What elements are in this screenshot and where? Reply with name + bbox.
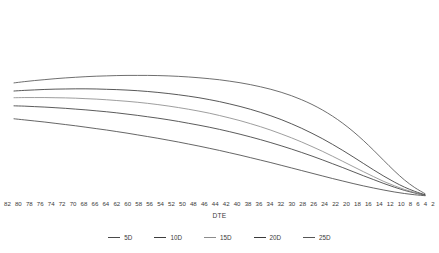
plot-svg (0, 0, 439, 200)
series-line-20d (14, 89, 425, 195)
legend-line-icon (108, 237, 120, 238)
chart-legend: 5D10D15D20D25D (0, 231, 439, 245)
legend-line-icon (303, 237, 315, 238)
x-tick-label: 12 (387, 201, 394, 207)
x-tick-label: 26 (310, 201, 317, 207)
x-tick-label: 36 (256, 201, 263, 207)
x-tick-label: 14 (376, 201, 383, 207)
x-tick-label: 4 (424, 201, 427, 207)
x-tick-label: 42 (223, 201, 230, 207)
x-tick-label: 62 (113, 201, 120, 207)
x-tick-label: 54 (157, 201, 164, 207)
legend-line-icon (254, 237, 266, 238)
x-tick-label: 68 (81, 201, 88, 207)
x-tick-label: 38 (245, 201, 252, 207)
x-axis-title: DTE (0, 212, 439, 219)
x-tick-label: 76 (37, 201, 44, 207)
series-group (14, 75, 425, 195)
x-tick-label: 48 (190, 201, 197, 207)
x-tick-label: 74 (48, 201, 55, 207)
x-tick-label: 32 (277, 201, 284, 207)
series-line-5d (14, 119, 425, 196)
x-tick-label: 46 (201, 201, 208, 207)
plot-area (0, 0, 439, 200)
x-tick-label: 70 (70, 201, 77, 207)
x-tick-label: 10 (398, 201, 405, 207)
x-tick-label: 22 (332, 201, 339, 207)
legend-item-20d[interactable]: 20D (254, 235, 282, 241)
legend-item-10d[interactable]: 10D (154, 235, 182, 241)
x-tick-label: 66 (92, 201, 99, 207)
legend-item-15d[interactable]: 15D (204, 235, 232, 241)
legend-label: 20D (270, 235, 282, 241)
x-tick-label: 18 (354, 201, 361, 207)
legend-label: 10D (170, 235, 182, 241)
x-tick-label: 2 (431, 201, 434, 207)
legend-label: 5D (124, 235, 132, 241)
legend-label: 25D (319, 235, 331, 241)
x-tick-label: 82 (4, 201, 11, 207)
x-tick-label: 64 (102, 201, 109, 207)
x-tick-label: 8 (409, 201, 412, 207)
x-tick-label: 80 (15, 201, 22, 207)
legend-line-icon (204, 237, 216, 238)
x-tick-label: 40 (234, 201, 241, 207)
legend-line-icon (154, 237, 166, 238)
x-axis-tick-labels: 8280787674727068666462605856545250484644… (0, 197, 439, 211)
legend-label: 15D (220, 235, 232, 241)
x-tick-label: 52 (168, 201, 175, 207)
legend-item-25d[interactable]: 25D (303, 235, 331, 241)
line-chart: 8280787674727068666462605856545250484644… (0, 0, 439, 253)
x-tick-label: 20 (343, 201, 350, 207)
legend-item-5d[interactable]: 5D (108, 235, 132, 241)
x-tick-label: 58 (135, 201, 142, 207)
x-tick-label: 28 (299, 201, 306, 207)
x-tick-label: 16 (365, 201, 372, 207)
x-tick-label: 6 (416, 201, 419, 207)
series-line-15d (14, 98, 425, 196)
x-tick-label: 56 (146, 201, 153, 207)
x-tick-label: 78 (26, 201, 33, 207)
x-tick-label: 72 (59, 201, 66, 207)
x-tick-label: 50 (179, 201, 186, 207)
x-tick-label: 44 (212, 201, 219, 207)
x-tick-label: 60 (124, 201, 131, 207)
x-tick-label: 30 (288, 201, 295, 207)
x-tick-label: 24 (321, 201, 328, 207)
x-tick-label: 34 (267, 201, 274, 207)
